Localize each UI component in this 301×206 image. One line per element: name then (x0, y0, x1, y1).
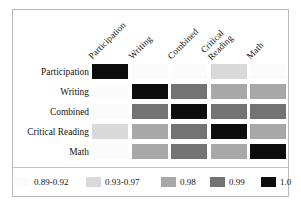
legend-label: 0.93-0.97 (105, 177, 140, 187)
heatmap-cell[interactable] (171, 144, 207, 159)
heatmap-row (92, 102, 288, 122)
legend-label: 0.98 (180, 177, 196, 187)
legend-swatch (161, 177, 176, 187)
column-header-math: Math (245, 41, 266, 62)
heatmap-cell[interactable] (132, 104, 168, 119)
heatmap-cell[interactable] (132, 64, 168, 79)
heatmap-cell[interactable] (171, 84, 207, 99)
legend-item[interactable]: 0.89-0.92 (15, 175, 69, 189)
legend-item[interactable]: 0.93-0.97 (86, 175, 140, 189)
heatmap-cell[interactable] (92, 144, 128, 159)
legend-swatch (86, 177, 101, 187)
heatmap-cell[interactable] (250, 64, 286, 79)
heatmap-cell[interactable] (211, 84, 247, 99)
legend-swatch (261, 177, 276, 187)
heatmap-cell[interactable] (211, 104, 247, 119)
heatmap-cell[interactable] (132, 144, 168, 159)
heatmap-cell[interactable] (250, 104, 286, 119)
column-header-critical-reading: Critical Reading (199, 14, 247, 62)
legend-label: 0.89-0.92 (34, 177, 69, 187)
legend-swatch (15, 177, 30, 187)
heatmap-row (92, 122, 288, 142)
column-header-participation: Participation (87, 21, 128, 62)
heatmap-cell[interactable] (92, 124, 128, 139)
row-label-participation: Participation (3, 66, 89, 78)
row-label-math: Math (3, 146, 89, 158)
heatmap-cell[interactable] (250, 144, 286, 159)
heatmap-cell[interactable] (132, 84, 168, 99)
column-header-combined: Combined (166, 28, 200, 62)
heatmap-cell[interactable] (171, 104, 207, 119)
legend-label: 1.0 (280, 177, 291, 187)
row-label-writing: Writing (3, 86, 89, 98)
heatmap-row (92, 82, 288, 102)
row-label-critical-reading: Critical Reading (3, 126, 89, 138)
heatmap-cell[interactable] (132, 124, 168, 139)
heatmap-row (92, 62, 288, 82)
heatmap-cell[interactable] (92, 64, 128, 79)
column-header-group: ParticipationWritingCombinedCritical Rea… (0, 0, 301, 62)
column-header-writing: Writing (127, 35, 154, 62)
heatmap-cell[interactable] (171, 64, 207, 79)
heatmap-cell[interactable] (92, 84, 128, 99)
legend-item[interactable]: 0.98 (161, 175, 196, 189)
heatmap-cell[interactable] (250, 84, 286, 99)
legend-item[interactable]: 0.99 (210, 175, 245, 189)
legend-divider (13, 167, 288, 168)
heatmap-cell[interactable] (211, 64, 247, 79)
heatmap-matrix (92, 62, 288, 162)
legend: 0.89-0.920.93-0.970.980.991.0 (13, 172, 288, 194)
legend-item[interactable]: 1.0 (261, 175, 291, 189)
row-label-group: ParticipationWritingCombinedCritical Rea… (0, 62, 89, 162)
heatmap-cell[interactable] (250, 124, 286, 139)
heatmap-row (92, 142, 288, 162)
correlation-heatmap-figure: ParticipationWritingCombinedCritical Rea… (0, 0, 301, 206)
heatmap-cell[interactable] (211, 144, 247, 159)
heatmap-cell[interactable] (92, 104, 128, 119)
legend-label: 0.99 (229, 177, 245, 187)
heatmap-cell[interactable] (211, 124, 247, 139)
heatmap-cell[interactable] (171, 124, 207, 139)
row-label-combined: Combined (3, 106, 89, 118)
legend-swatch (210, 177, 225, 187)
